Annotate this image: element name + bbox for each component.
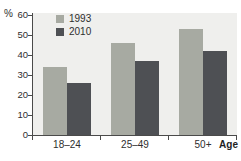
x-tick-mark-1: [100, 136, 101, 140]
y-tick-label-10: 10: [8, 110, 28, 120]
y-tick-mark-20: [28, 95, 32, 96]
y-tick-mark-30: [28, 75, 32, 76]
x-axis-line: [32, 135, 237, 136]
y-tick-label-50: 50: [8, 30, 28, 40]
y-tick-label-30: 30: [8, 70, 28, 80]
bar-1993-18-24: [43, 67, 67, 135]
x-axis-title: Age: [219, 139, 238, 150]
y-tick-label-40: 40: [8, 50, 28, 60]
x-tick-mark-0: [32, 136, 33, 140]
bar-2010-18-24: [67, 83, 91, 135]
legend-label-2010: 2010: [69, 27, 91, 37]
legend: 1993 2010: [56, 14, 91, 37]
y-tick-mark-60: [28, 15, 32, 16]
y-tick-mark-50: [28, 35, 32, 36]
x-category-label-3: 50+: [195, 139, 212, 150]
x-category-label-1: 18–24: [53, 139, 81, 150]
legend-label-1993: 1993: [69, 14, 91, 24]
legend-swatch-1993: [56, 15, 64, 23]
y-tick-mark-10: [28, 115, 32, 116]
legend-item-2010: 2010: [56, 27, 91, 37]
y-tick-label-60: 60: [8, 10, 28, 20]
y-tick-label-20: 20: [8, 90, 28, 100]
legend-item-1993: 1993: [56, 14, 91, 24]
bar-2010-50+: [203, 51, 227, 135]
bar-chart: % 1993 2010 Age 010203040506018–2425–495…: [0, 0, 241, 161]
y-tick-label-0: 0: [8, 130, 28, 140]
y-axis-line: [32, 13, 33, 136]
legend-swatch-2010: [56, 28, 64, 36]
bar-1993-50+: [179, 29, 203, 135]
x-category-label-2: 25–49: [121, 139, 149, 150]
x-tick-mark-2: [168, 136, 169, 140]
bar-1993-25-49: [111, 43, 135, 135]
x-tick-mark-3: [236, 136, 237, 140]
bar-2010-25-49: [135, 61, 159, 135]
y-tick-mark-40: [28, 55, 32, 56]
